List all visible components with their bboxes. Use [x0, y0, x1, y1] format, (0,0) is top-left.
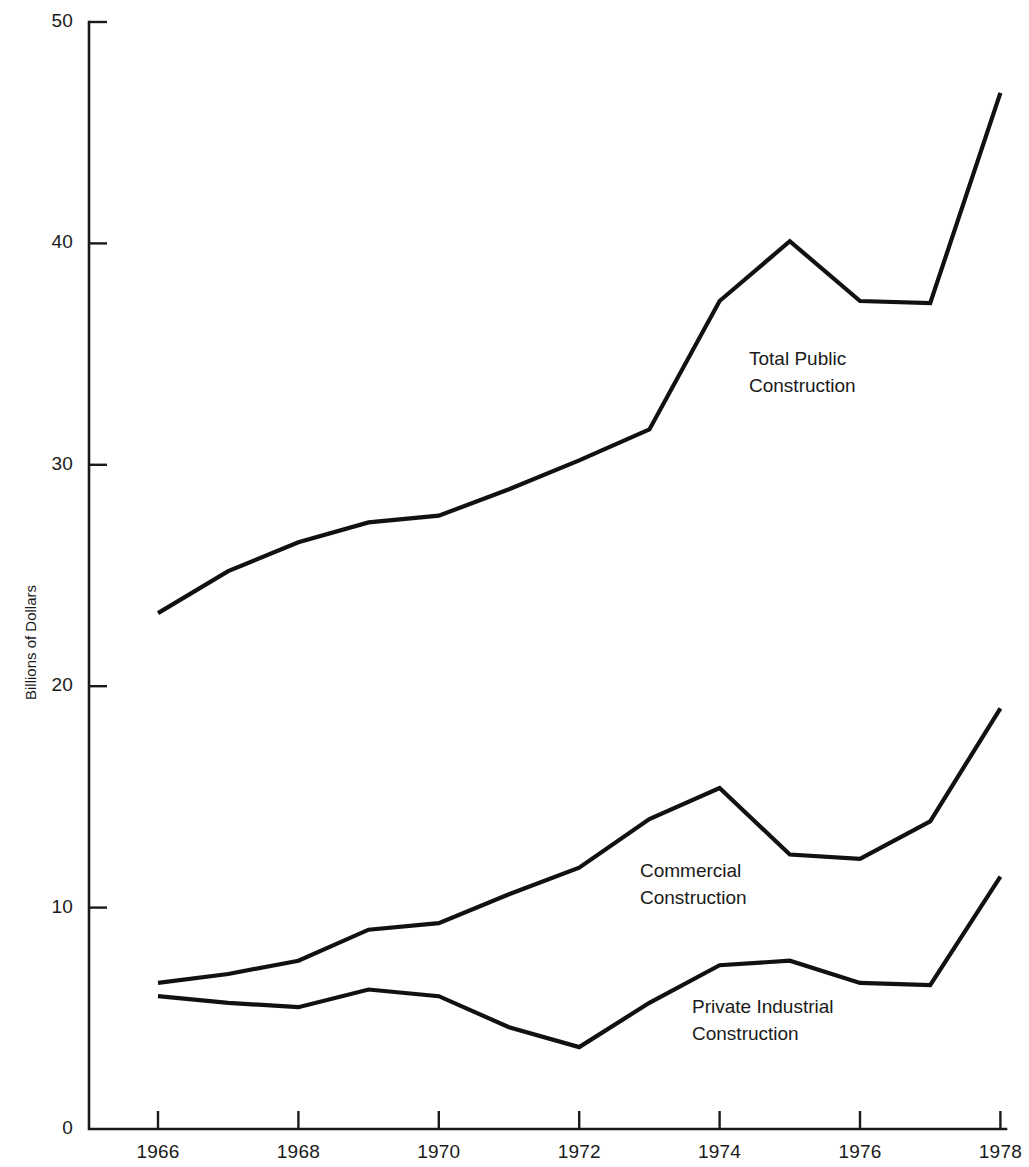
y-axis-title: Billions of Dollars	[22, 585, 39, 700]
x-axis-tick-label: 1970	[394, 1141, 484, 1163]
annotation-line: Total Public	[749, 345, 856, 372]
x-axis-tick-label: 1968	[253, 1141, 343, 1163]
x-axis-tick-label: 1966	[113, 1141, 203, 1163]
y-axis-tick-label: 30	[13, 453, 73, 475]
axes-group	[89, 22, 1006, 1129]
y-axis-tick-label: 40	[13, 231, 73, 253]
line-chart: 01020304050 1966196819701972197419761978…	[0, 0, 1029, 1167]
annotation-line: Private Industrial	[692, 993, 834, 1020]
axis-lines	[89, 22, 1006, 1129]
commercial-construction-label: CommercialConstruction	[640, 857, 747, 911]
series-line-commercial-construction	[158, 708, 1000, 983]
data-series-group	[158, 93, 1000, 1047]
annotation-line: Construction	[692, 1020, 834, 1047]
series-line-total-public-construction	[158, 93, 1000, 613]
annotation-line: Commercial	[640, 857, 747, 884]
x-axis-tick-label: 1972	[534, 1141, 624, 1163]
axis-ticks	[89, 22, 1000, 1129]
x-axis-tick-label: 1976	[815, 1141, 905, 1163]
annotation-line: Construction	[749, 372, 856, 399]
y-axis-tick-label: 0	[13, 1117, 73, 1139]
y-axis-tick-label: 50	[13, 10, 73, 32]
plot-area	[0, 0, 1029, 1167]
annotation-line: Construction	[640, 884, 747, 911]
y-axis-tick-label: 10	[13, 896, 73, 918]
private-industrial-construction-label: Private IndustrialConstruction	[692, 993, 834, 1047]
total-public-construction-label: Total PublicConstruction	[749, 345, 856, 399]
x-axis-tick-label: 1974	[675, 1141, 765, 1163]
x-axis-tick-label: 1978	[955, 1141, 1029, 1163]
